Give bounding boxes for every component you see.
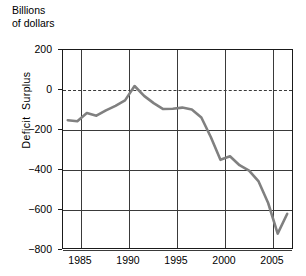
- plot-area: [62, 49, 293, 249]
- y-tick-label: −800: [0, 244, 52, 254]
- units-caption-line-2: of dollars: [12, 17, 55, 29]
- y-tick-label: 200: [0, 44, 52, 54]
- y-tick-mark: [58, 249, 62, 250]
- x-tick-label: 2000: [202, 255, 246, 266]
- chart-root: Billionsof dollars Deficit Surplus 200 0…: [0, 0, 306, 276]
- series-line-deficit-surplus: [68, 86, 287, 234]
- data-line-layer: [63, 50, 292, 248]
- chart-units-caption: Billionsof dollars: [12, 4, 55, 29]
- x-tick-label: 1985: [58, 255, 102, 266]
- y-tick-label: −600: [0, 204, 52, 214]
- x-tick-label: 1990: [106, 255, 150, 266]
- units-caption-line-1: Billions: [12, 4, 45, 16]
- y-axis-title: Deficit Surplus: [20, 40, 32, 180]
- y-tick-label: 0: [0, 84, 52, 94]
- x-tick-label: 2005: [250, 255, 294, 266]
- y-tick-label: −400: [0, 164, 52, 174]
- y-tick-label: −200: [0, 124, 52, 134]
- x-tick-label: 1995: [154, 255, 198, 266]
- gridline-horizontal-minus800: [63, 250, 292, 251]
